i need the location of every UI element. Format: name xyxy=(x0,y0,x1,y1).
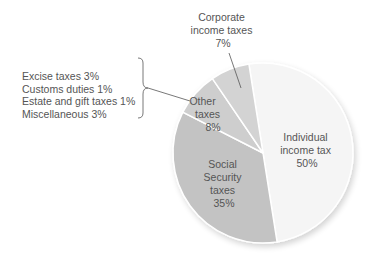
brace-icon xyxy=(138,58,148,118)
label-corporate: Corporate income taxes 7% xyxy=(191,11,256,49)
breakdown-item-customs: Customs duties 1% xyxy=(22,83,135,96)
other-taxes-breakdown: Excise taxes 3% Customs duties 1% Estate… xyxy=(22,70,135,120)
breakdown-item-excise: Excise taxes 3% xyxy=(22,70,135,83)
breakdown-item-misc: Miscellaneous 3% xyxy=(22,108,135,121)
pie-chart: Corporate income taxes 7% Other taxes 8%… xyxy=(0,0,379,258)
breakdown-item-estate-gift: Estate and gift taxes 1% xyxy=(22,95,135,108)
other-leader-line xyxy=(148,88,190,101)
